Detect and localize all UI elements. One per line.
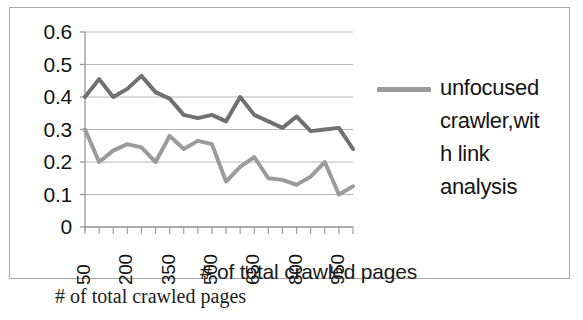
y-tick-label: 0.2 [22,151,72,172]
x-axis-title: # of total crawled pages [200,261,417,282]
legend-label-line: h link [440,137,568,170]
figure-container: 00.10.20.30.40.50.6 50200350500650800950… [0,0,583,320]
x-tick-label: 50 [74,264,93,285]
figure-caption: # of total crawled pages [55,284,246,308]
chart-frame: 00.10.20.30.40.50.6 50200350500650800950… [9,7,570,279]
x-tick-label: 350 [159,254,178,285]
x-tick-label: 200 [116,254,135,285]
legend-marker-icon [377,87,431,92]
y-tick-label: 0.4 [22,86,72,107]
legend-label-line: crawler,wit [440,104,568,137]
legend-label-line: analysis [440,170,568,203]
series-line-0 [85,76,353,149]
y-tick-label: 0.6 [22,21,72,42]
y-tick-label: 0.3 [22,119,72,140]
y-axis-tick-labels: 00.10.20.30.40.50.6 [22,26,72,237]
y-tick-label: 0.5 [22,54,72,75]
plot-area [74,26,355,237]
y-tick-label: 0 [22,216,72,237]
legend-label: unfocusedcrawler,with linkanalysis [440,71,568,203]
line-chart-svg [74,26,355,237]
y-tick-label: 0.1 [22,184,72,205]
legend-label-line: unfocused [440,71,568,104]
